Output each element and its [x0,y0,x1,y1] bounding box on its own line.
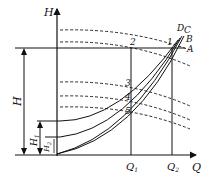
curve-label-b: B [185,34,193,44]
h1-label: H1 [29,134,40,147]
system-curves [37,36,184,154]
point-1: 1 [167,37,173,47]
point-4: 4 [124,92,131,102]
curve-label-a: A [186,44,194,54]
point-2: 2 [129,37,136,47]
q1-label: Q1 [126,161,138,173]
pump-system-curve-diagram: H Q H H1 H2 Q1 Q2 A B C D 1 2 3 4 5 [0,0,207,182]
curve-label-c: C [184,25,191,35]
h2-label: H2 [42,142,52,153]
point-3: 3 [125,78,131,88]
total-head-label: H [11,96,24,107]
curve-label-d: D [176,23,184,33]
q-axis-label: Q [192,161,201,174]
point-5: 5 [125,106,131,116]
q2-label: Q2 [167,161,179,173]
h-axis-label: H [43,6,54,19]
